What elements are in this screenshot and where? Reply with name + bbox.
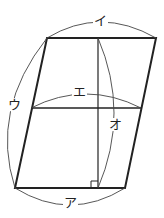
label-e: エ [72, 85, 87, 98]
label-i: イ [93, 14, 108, 27]
parallelogram [15, 38, 156, 188]
label-a: ア [63, 196, 78, 209]
label-u: ウ [7, 98, 22, 111]
arc-o [98, 38, 114, 188]
label-o: オ [108, 118, 123, 131]
arc-u [7, 38, 47, 188]
parallelogram-figure [0, 0, 164, 218]
right-angle-mark [91, 181, 98, 188]
